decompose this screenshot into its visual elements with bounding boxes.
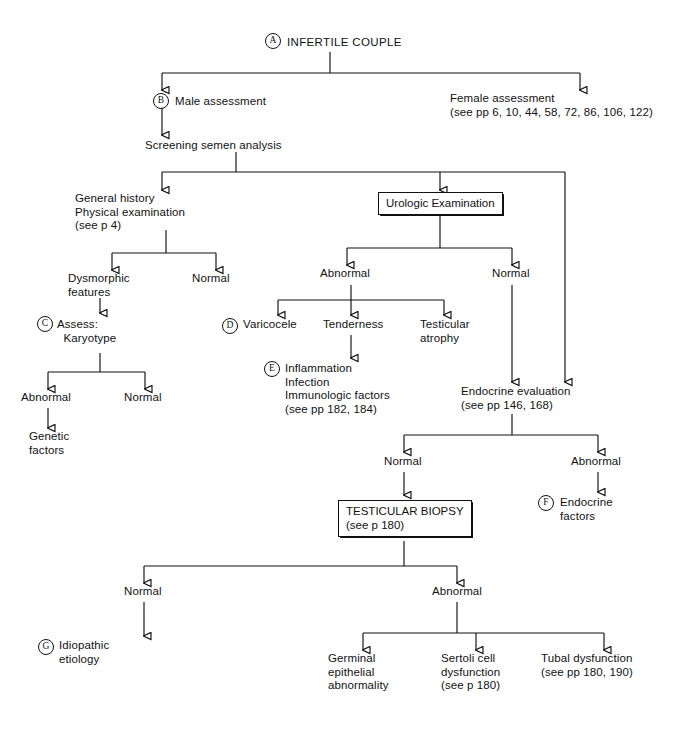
node-genetic-factors: Genetic factors [29, 430, 69, 457]
node-dysmorphic-features: Dysmorphic features [68, 272, 130, 299]
node-abnormal-biopsy: Abnormal [432, 585, 482, 599]
node-testicular-biopsy: TESTICULAR BIOPSY (see p 180) [338, 500, 472, 537]
marker-c-icon: C [37, 316, 53, 332]
node-normal-biopsy: Normal [124, 585, 162, 599]
node-germinal-epithelial-abnormality: Germinal epithelial abnormality [328, 652, 389, 693]
marker-f-icon: F [538, 495, 554, 511]
node-normal-endocrine: Normal [384, 455, 422, 469]
node-normal-urologic: Normal [492, 267, 530, 281]
node-normal-history: Normal [192, 272, 230, 286]
node-infertile-couple: INFERTILE COUPLE [287, 36, 402, 50]
marker-b-icon: B [153, 93, 169, 109]
marker-e-icon: E [264, 361, 280, 377]
node-abnormal-urologic: Abnormal [320, 267, 370, 281]
node-endocrine-evaluation: Endocrine evaluation (see pp 146, 168) [461, 385, 570, 412]
node-testicular-atrophy: Testicular atrophy [420, 318, 470, 345]
marker-d-icon: D [222, 318, 238, 334]
node-normal-karyotype: Normal [124, 391, 162, 405]
node-screening-semen-analysis: Screening semen analysis [145, 139, 282, 153]
node-general-history: General history Physical examination (se… [75, 192, 185, 233]
node-idiopathic-etiology: Idiopathic etiology [59, 639, 109, 666]
node-endocrine-factors: Endocrine factors [560, 496, 613, 523]
marker-g-icon: G [38, 639, 54, 655]
node-tubal-dysfunction: Tubal dysfunction (see pp 180, 190) [541, 652, 633, 679]
flowchart-canvas: A B C D E F G INFERTILE COUPLE Male asse… [0, 0, 692, 736]
node-abnormal-endocrine: Abnormal [571, 455, 621, 469]
node-female-assessment: Female assessment (see pp 6, 10, 44, 58,… [450, 92, 653, 119]
node-assess-karyotype: Assess: Karyotype [57, 318, 116, 345]
node-abnormal-karyotype: Abnormal [21, 391, 71, 405]
node-inflammation-infection: Inflammation Infection Immunologic facto… [285, 362, 390, 416]
node-sertoli-cell-dysfunction: Sertoli cell dysfunction (see p 180) [441, 652, 500, 693]
node-varicocele: Varicocele [243, 318, 297, 332]
node-male-assessment: Male assessment [175, 95, 266, 109]
node-urologic-examination: Urologic Examination [378, 192, 503, 215]
marker-a-icon: A [265, 33, 281, 49]
node-tenderness: Tenderness [323, 318, 383, 332]
